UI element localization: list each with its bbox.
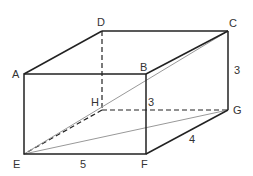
dimension-label-EF: 5 bbox=[80, 158, 86, 170]
edge-AD bbox=[24, 31, 102, 74]
dimension-label-CG: 3 bbox=[234, 64, 240, 76]
diagonal-EG bbox=[24, 110, 228, 154]
edge-FG bbox=[146, 110, 228, 154]
dimension-label-BF: 3 bbox=[148, 96, 154, 108]
vertex-label-H: H bbox=[91, 96, 99, 108]
edge-BC bbox=[146, 31, 228, 74]
vertex-label-E: E bbox=[13, 158, 20, 170]
diagonal-EC bbox=[24, 31, 228, 154]
vertex-label-G: G bbox=[233, 104, 242, 116]
vertex-label-D: D bbox=[97, 16, 105, 28]
diagonals bbox=[24, 31, 228, 154]
vertex-label-F: F bbox=[141, 158, 148, 170]
vertex-label-A: A bbox=[12, 68, 20, 80]
vertex-label-C: C bbox=[229, 17, 237, 29]
dimension-label-FG: 4 bbox=[189, 133, 195, 145]
face-ABFE bbox=[24, 74, 146, 154]
cuboid-diagram: D C A B H G E F 5 4 3 3 bbox=[0, 0, 253, 176]
vertex-label-B: B bbox=[140, 61, 147, 73]
